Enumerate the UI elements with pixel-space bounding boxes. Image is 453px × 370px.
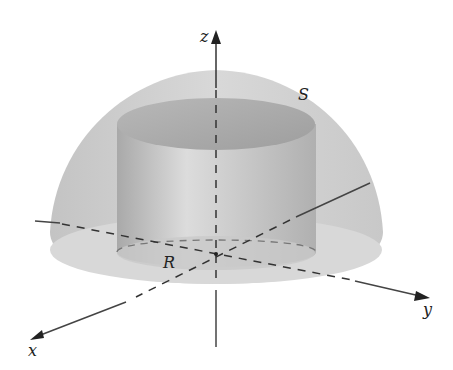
z-axis-label: z bbox=[199, 27, 209, 46]
x-axis-arrow-icon bbox=[30, 330, 44, 340]
y-axis bbox=[355, 281, 420, 296]
y-axis-label: y bbox=[422, 300, 433, 319]
z-axis-arrow-icon bbox=[211, 30, 221, 44]
surface-label-s: S bbox=[298, 85, 309, 104]
x-axis bbox=[38, 302, 126, 336]
region-label-r: R bbox=[162, 253, 175, 272]
hemisphere-cylinder-diagram: z S R x y bbox=[0, 0, 453, 370]
x-axis-label: x bbox=[28, 341, 37, 360]
origin-point bbox=[214, 252, 218, 256]
